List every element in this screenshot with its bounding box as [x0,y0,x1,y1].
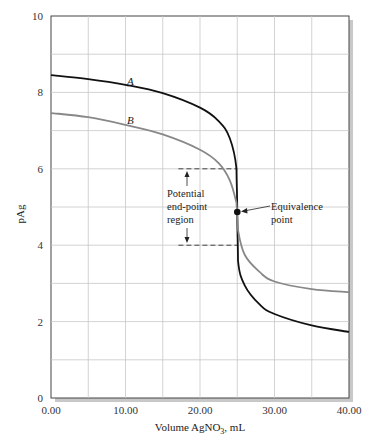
y-tick-label: 4 [38,239,44,251]
x-tick-label: 10.00 [113,404,138,416]
y-tick-label: 8 [38,86,44,98]
x-tick-label: 0.00 [41,404,61,416]
endpoint-label-line2: end-point [167,201,207,212]
titration-chart: 0.0010.0020.0030.0040.000246810 A B Pote… [0,0,370,444]
curve-label-a: A [126,75,134,87]
x-axis-label: Volume AgNO3, mL [155,421,246,436]
y-tick-label: 6 [38,163,44,175]
curve-label-b: B [127,114,134,126]
equivalence-label-line1: Equivalence [271,201,323,212]
y-tick-label: 2 [38,316,44,328]
equivalence-point-marker [234,209,241,216]
endpoint-label-line1: Potential [167,188,204,199]
endpoint-label-line3: region [167,214,195,225]
equivalence-label-line2: point [271,214,293,225]
y-axis-label: pAg [14,204,26,223]
y-tick-label: 0 [38,392,44,404]
x-tick-label: 30.00 [262,404,287,416]
x-tick-label: 20.00 [188,404,213,416]
x-tick-label: 40.00 [337,404,362,416]
y-tick-label: 10 [32,10,44,22]
